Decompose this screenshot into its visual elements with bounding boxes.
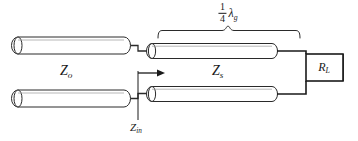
zo-subscript: o [68, 70, 73, 80]
transformer-line-lower [147, 87, 278, 102]
label-load-resistance: RL [318, 61, 330, 73]
rl-subscript: L [325, 66, 329, 75]
zs-subscript: s [220, 70, 224, 80]
zo-symbol: Z [60, 63, 68, 78]
diagram-canvas [0, 0, 358, 141]
lambda-subscript: g [234, 12, 238, 21]
fraction-one-quarter: 1 4 [218, 2, 226, 24]
left-line-upper [12, 37, 131, 54]
zin-subscript: in [136, 127, 142, 135]
lambda-symbol-group: λg [228, 7, 237, 19]
transformer-line-upper [147, 44, 278, 59]
upper-step-connector [131, 46, 148, 52]
label-quarter-wavelength: 1 4 λg [218, 2, 237, 24]
label-input-impedance: Zin [130, 122, 142, 133]
left-line-lower [12, 90, 131, 107]
lower-step-connector [131, 94, 148, 99]
label-characteristic-impedance: Zo [60, 64, 72, 78]
span-brace [158, 26, 300, 38]
fraction-numerator: 1 [219, 2, 226, 12]
fraction-denominator: 4 [219, 14, 226, 24]
label-transformer-impedance: Zs [212, 64, 223, 78]
transmission-line-diagram: Zo Zs Zin RL 1 4 λg [0, 0, 358, 141]
zs-symbol: Z [212, 63, 220, 78]
